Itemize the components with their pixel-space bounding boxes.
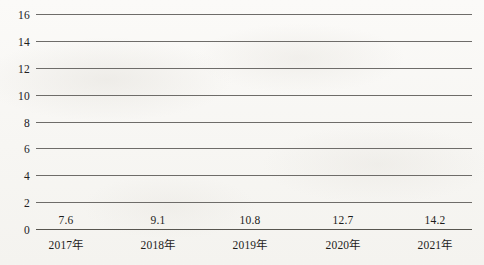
y-axis-tick-14: 14 [18, 36, 30, 48]
x-axis-label-2020: 2020年 [326, 236, 361, 252]
y-axis-tick-0: 0 [24, 224, 30, 236]
bar-value-2017: 7.6 [59, 214, 74, 226]
x-axis-line: 0 [36, 229, 472, 230]
x-axis-labels: 2017年 2018年 2019年 2020年 2021年 [36, 236, 472, 258]
bar-value-2019: 10.8 [240, 214, 261, 226]
x-axis-label-2019: 2019年 [233, 236, 268, 252]
x-axis-label-2021: 2021年 [418, 236, 453, 252]
y-axis-tick-6: 6 [24, 143, 30, 155]
y-axis-tick-8: 8 [24, 117, 30, 129]
y-axis-tick-10: 10 [18, 90, 30, 102]
y-axis-tick-2: 2 [24, 197, 30, 209]
y-axis-tick-12: 12 [18, 63, 30, 75]
x-axis-label-2017: 2017年 [49, 236, 84, 252]
bar-value-2020: 12.7 [333, 214, 354, 226]
bar-value-2021: 14.2 [425, 214, 446, 226]
plot-area: 16 14 12 10 8 6 4 2 0 7.6 9.1 10.8 1 [36, 14, 472, 229]
y-axis-tick-16: 16 [18, 9, 30, 21]
bar-series: 7.6 9.1 10.8 12.7 14.2 [36, 14, 472, 229]
x-axis-label-2018: 2018年 [141, 236, 176, 252]
y-axis-tick-4: 4 [24, 170, 30, 182]
bar-value-2018: 9.1 [151, 214, 166, 226]
bar-chart: 16 14 12 10 8 6 4 2 0 7.6 9.1 10.8 1 [0, 0, 484, 265]
